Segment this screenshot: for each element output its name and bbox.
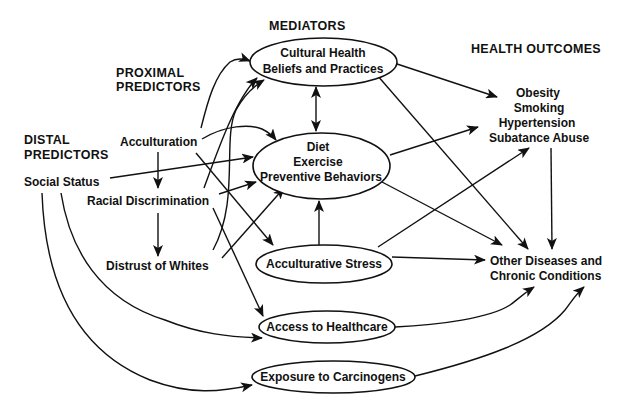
header-health-outcomes: HEALTH OUTCOMES xyxy=(471,42,601,56)
node-acculturative-stress: Acculturative Stress xyxy=(256,245,392,283)
node-diet-line2: Exercise xyxy=(293,155,343,169)
node-cultural-line1: Cultural Health xyxy=(280,46,365,60)
edge-diet-to-chronic xyxy=(382,182,502,245)
edge-stress-to-chronic xyxy=(392,257,485,260)
edge-access-to-chronic xyxy=(395,287,534,327)
edge-cultural-to-chronic xyxy=(377,75,528,249)
label-obesity: Obesity xyxy=(516,86,560,100)
edge-behavioral-to-chronic xyxy=(551,148,552,249)
header-proximal-line2: PREDICTORS xyxy=(116,80,201,94)
edge-cultural-to-behavioral xyxy=(388,61,497,97)
node-diet-exercise: Diet Exercise Preventive Behaviors xyxy=(253,133,390,199)
edge-diet-to-behavioral xyxy=(390,127,478,155)
node-cultural-health: Cultural Health Beliefs and Practices xyxy=(250,38,397,86)
header-distal-line1: DISTAL xyxy=(24,133,70,147)
outcome-labels: Obesity Smoking Hypertension Subatance A… xyxy=(489,86,602,283)
label-racial-discrimination: Racial Discrimination xyxy=(87,194,209,208)
node-diet-line3: Preventive Behaviors xyxy=(260,170,382,184)
header-proximal-line1: PROXIMAL xyxy=(116,66,184,80)
edge-distrust-to-diet xyxy=(222,188,284,258)
node-cultural-line2: Beliefs and Practices xyxy=(263,62,384,76)
node-access-healthcare: Access to Healthcare xyxy=(259,311,395,343)
label-chronic-line1: Other Diseases and xyxy=(490,254,602,268)
node-diet-line1: Diet xyxy=(307,140,330,154)
label-acculturation: Acculturation xyxy=(120,135,197,149)
label-smoking: Smoking xyxy=(514,101,565,115)
label-hypertension: Hypertension xyxy=(499,116,576,130)
label-chronic-line2: Chronic Conditions xyxy=(490,269,602,283)
header-distal-line2: PREDICTORS xyxy=(24,148,109,162)
node-access-label: Access to Healthcare xyxy=(266,320,388,334)
label-distrust-of-whites: Distrust of Whites xyxy=(106,259,209,273)
edge-exposure-to-chronic xyxy=(415,287,584,376)
node-exposure-label: Exposure to Carcinogens xyxy=(260,370,406,384)
header-mediators: MEDIATORS xyxy=(269,19,346,33)
conceptual-model-diagram: Cultural Health Beliefs and Practices Di… xyxy=(0,0,629,420)
edge-acculturation-to-diet xyxy=(202,126,276,140)
node-exposure-carcinogens: Exposure to Carcinogens xyxy=(252,361,415,393)
label-substance-abuse: Subatance Abuse xyxy=(489,131,590,145)
edge-social-to-diet xyxy=(110,157,253,178)
label-social-status: Social Status xyxy=(24,175,100,189)
node-stress-label: Acculturative Stress xyxy=(266,257,382,271)
edge-acculturation-to-cultural xyxy=(201,59,250,128)
